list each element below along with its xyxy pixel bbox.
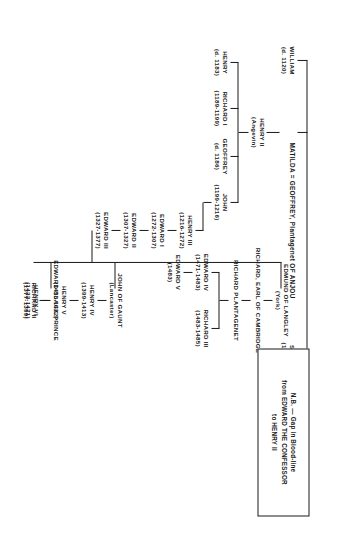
node-edward-iii-name: EDWARD III bbox=[101, 212, 109, 249]
node-edward-ii-name: EDWARD II bbox=[129, 212, 137, 248]
node-henry-iii: HENRY III (1216-1272) bbox=[177, 212, 193, 248]
connector-john-to-henry3 bbox=[202, 202, 203, 230]
connector-stub-richard-i bbox=[230, 107, 238, 108]
node-richard-iii: RICHARD III (1483-1485) bbox=[193, 309, 209, 347]
node-edward-iv-name: EDWARD IV bbox=[201, 253, 209, 290]
connector-plantagenet-down bbox=[219, 299, 228, 300]
connector-top-sibling-bar bbox=[306, 60, 307, 360]
node-john-dates: (1199-1216) bbox=[212, 184, 220, 220]
node-richard-iii-dates: (1483-1485) bbox=[193, 309, 201, 347]
node-richard-plantagenet-name: RICHARD PLANTAGENET bbox=[231, 260, 239, 341]
node-geoffrey: GEOFFREY (d. 1186) bbox=[212, 138, 228, 174]
node-henry-iv: HENRY IV (1399-1413) bbox=[79, 282, 95, 318]
node-edward-iii: EDWARD III (1327-1377) bbox=[93, 212, 109, 249]
connector-stub-edward-iv bbox=[211, 271, 219, 272]
node-john-name: JOHN bbox=[220, 184, 228, 220]
connector-henry3-edward1 bbox=[167, 229, 176, 230]
node-geoffrey-name: GEOFFREY bbox=[220, 138, 228, 174]
node-william-dates: (d. 1120) bbox=[279, 46, 287, 74]
node-henry-vi-name: HENRY VI bbox=[31, 282, 39, 318]
node-william: WILLIAM (d. 1120) bbox=[279, 46, 295, 74]
node-henry-iii-dates: (1216-1272) bbox=[177, 212, 185, 248]
connector-john-down bbox=[203, 201, 211, 202]
node-henry-ii: HENRY II (Angevin) bbox=[249, 117, 265, 148]
connector-stub-william bbox=[297, 59, 307, 60]
connector-edward2-edward3 bbox=[111, 229, 120, 230]
blood-line-gap-note: N.B. — Gap in Blood-line from EDWARD THE… bbox=[257, 348, 309, 516]
node-edward-iv-dates: (1471-1483) bbox=[193, 253, 201, 290]
connector-matilda-to-henry2 bbox=[266, 131, 279, 132]
node-edmund-of-langley: EDMUND OF LANGLEY (York) bbox=[273, 264, 289, 337]
node-edward-v: EDWARD V (1483) bbox=[165, 254, 181, 289]
node-richard-i-dates: (1189-1199) bbox=[212, 90, 220, 126]
node-henry-vi: HENRY VI (1422-1471) bbox=[23, 282, 39, 318]
node-henry-v-name: HENRY V bbox=[59, 282, 67, 318]
connector-langley-cambridge bbox=[263, 299, 272, 300]
node-henry-v-dates: (1413-1422) bbox=[51, 282, 59, 318]
node-henry-ii-name: HENRY II bbox=[257, 117, 265, 148]
node-richard-plantagenet: RICHARD PLANTAGENET bbox=[231, 260, 239, 341]
node-john-of-gaunt-name: JOHN OF GAUNT bbox=[115, 273, 123, 327]
connector-down-to-henry3 bbox=[195, 229, 203, 230]
connector-cambridge-plantagenet bbox=[241, 299, 250, 300]
node-henry-d1183-name: HENRY bbox=[220, 48, 228, 75]
node-henry-iii-name: HENRY III bbox=[185, 212, 193, 248]
node-edward-iii-dates: (1327-1377) bbox=[93, 212, 101, 249]
connector-edward4-edward5 bbox=[183, 271, 192, 272]
node-edward-v-dates: (1483) bbox=[165, 254, 173, 289]
connector-edward3-children-spine bbox=[33, 261, 281, 262]
node-richard-earl-of-cambridge-name: RICHARD, EARL OF CAMBRIDGE bbox=[253, 247, 261, 352]
node-edward-iv: EDWARD IV (1471-1483) bbox=[193, 253, 209, 290]
node-henry-iv-dates: (1399-1413) bbox=[79, 282, 87, 318]
connector-stub-geoffrey bbox=[230, 155, 238, 156]
node-edward-v-name: EDWARD V bbox=[173, 254, 181, 289]
connector-edward3-to-spine bbox=[91, 230, 92, 262]
genealogy-chart: WILLIAM (d. 1120) MATILDA = GEOFFREY, Pl… bbox=[0, 0, 351, 546]
connector-edward1-edward2 bbox=[139, 229, 148, 230]
node-edward-i-name: EDWARD I bbox=[157, 212, 165, 248]
node-john: JOHN (1199-1216) bbox=[212, 184, 228, 220]
node-john-of-gaunt-dates: (Lancaster) bbox=[107, 273, 115, 327]
node-henry-v: HENRY V (1413-1422) bbox=[51, 282, 67, 318]
node-richard-i-name: RICHARD I bbox=[220, 90, 228, 126]
node-william-name: WILLIAM bbox=[287, 46, 295, 74]
connector-henry2-children-bar bbox=[237, 62, 238, 202]
node-henry-ii-dates: (Angevin) bbox=[249, 117, 257, 148]
connector-stub-matilda bbox=[297, 131, 307, 132]
chart-stage: WILLIAM (d. 1120) MATILDA = GEOFFREY, Pl… bbox=[0, 0, 351, 546]
node-henry-vi-dates: (1422-1471) bbox=[23, 282, 31, 318]
node-henry-iv-name: HENRY IV bbox=[87, 282, 95, 318]
connector-henry5-henry6 bbox=[41, 299, 50, 300]
note-line-2: from EDWARD THE CONFESSOR bbox=[278, 380, 287, 485]
node-richard-iii-name: RICHARD III bbox=[201, 309, 209, 347]
node-henry-d1183: HENRY (d. 1183) bbox=[212, 48, 228, 75]
node-henry-d1183-dates: (d. 1183) bbox=[212, 48, 220, 75]
note-line-3: to HENRY II bbox=[269, 380, 278, 485]
connector-stub-henry-d1183 bbox=[230, 61, 238, 62]
connector-henry2-down bbox=[238, 131, 248, 132]
node-edmund-of-langley-dates: (York) bbox=[273, 264, 281, 337]
connector-plantagenet-children-bar bbox=[218, 272, 219, 328]
node-edmund-of-langley-name: EDMUND OF LANGLEY bbox=[281, 264, 289, 337]
node-edward-ii-dates: (1307-1327) bbox=[121, 212, 129, 248]
connector-stub-richard-iii bbox=[211, 327, 219, 328]
note-line-1: N.B. — Gap in Blood-line bbox=[288, 380, 297, 485]
node-richard-earl-of-cambridge: RICHARD, EARL OF CAMBRIDGE bbox=[253, 247, 261, 352]
node-geoffrey-dates: (d. 1186) bbox=[212, 138, 220, 174]
connector-stub-john bbox=[230, 201, 238, 202]
node-edward-ii: EDWARD II (1307-1327) bbox=[121, 212, 137, 248]
node-edward-i: EDWARD I (1272-1307) bbox=[149, 212, 165, 248]
connector-gaunt-henry4 bbox=[97, 299, 106, 300]
node-john-of-gaunt: JOHN OF GAUNT (Lancaster) bbox=[107, 273, 123, 327]
node-richard-i: RICHARD I (1189-1199) bbox=[212, 90, 228, 126]
node-edward-i-dates: (1272-1307) bbox=[149, 212, 157, 248]
connector-henry4-henry5 bbox=[69, 299, 78, 300]
